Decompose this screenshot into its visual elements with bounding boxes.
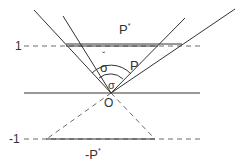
label-p: P	[130, 58, 139, 73]
label-minus-one: -1	[9, 132, 20, 146]
label-one: 1	[15, 39, 22, 53]
cone-diagram: P* 1 ˇ σ P σ O -1 -P*	[0, 0, 249, 164]
diagram-canvas: P* 1 ˇ σ P σ O -1 -P*	[0, 0, 249, 164]
label-sigma-check: σ	[100, 60, 108, 75]
label-origin: O	[104, 96, 113, 110]
label-sigma: σ	[108, 79, 115, 91]
outer-cone-left	[34, 10, 111, 93]
dashed-right-to-neg	[111, 93, 154, 138]
label-p-star: P*	[119, 22, 131, 37]
label-neg-p-star: -P*	[85, 147, 101, 162]
dashed-left-to-neg	[48, 93, 111, 138]
